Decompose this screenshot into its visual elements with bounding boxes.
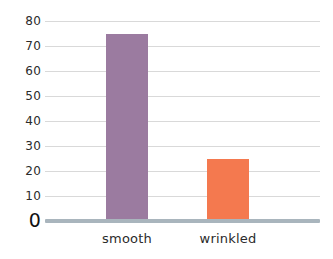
y-tick-label-0: 0 [3,211,41,230]
bar-chart: 80 70 60 50 40 30 20 10 0 smooth wrinkle… [0,0,333,259]
x-label-wrinkled: wrinkled [177,231,279,246]
y-tick-label-10: 10 [3,190,41,202]
x-label-smooth: smooth [76,231,178,246]
y-tick-label-20: 20 [3,165,41,177]
bars-layer [45,0,320,221]
y-axis-labels: 80 70 60 50 40 30 20 10 0 [0,0,41,259]
y-tick-label-40: 40 [3,115,41,127]
y-tick-label-30: 30 [3,140,41,152]
bar-wrinkled [207,159,249,222]
y-tick-label-80: 80 [3,15,41,27]
y-tick-label-50: 50 [3,90,41,102]
bar-smooth [106,34,148,222]
x-axis-line [45,219,320,223]
y-tick-label-60: 60 [3,65,41,77]
y-tick-label-70: 70 [3,40,41,52]
